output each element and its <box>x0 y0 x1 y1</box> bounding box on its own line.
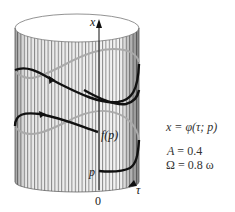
map-point-label: f(p) <box>101 128 118 143</box>
parameter-A-name: A <box>167 144 174 158</box>
parameter-A: A = 0.4 <box>167 144 202 159</box>
start-point-label: p <box>89 165 95 180</box>
cylinder-top <box>15 14 139 42</box>
parameter-A-value: 0.4 <box>187 144 202 158</box>
parameter-Omega-name: Ω <box>166 158 175 172</box>
parameter-Omega-value: 0.8 ω <box>188 158 214 172</box>
map-equation: x = φ(τ; p) <box>166 120 217 135</box>
cylinder-diagram <box>0 0 235 212</box>
tau-axis-label: τ <box>136 183 140 198</box>
parameter-Omega: Ω = 0.8 ω <box>166 158 214 173</box>
origin-label: 0 <box>95 194 101 209</box>
x-axis-label: x <box>90 15 95 30</box>
